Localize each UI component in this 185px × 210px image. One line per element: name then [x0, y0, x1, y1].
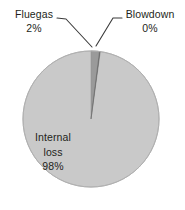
pie-label-internal-loss-name-line2: loss	[18, 145, 88, 160]
pie-label-fluegas-name: Fluegas	[6, 8, 62, 22]
pie-chart: Fluegas 2% Blowdown 0% Internal loss 98%	[0, 0, 185, 210]
pie-label-blowdown-name: Blowdown	[118, 8, 182, 22]
pie-label-internal-loss: Internal loss 98%	[18, 130, 88, 174]
pie-label-fluegas: Fluegas 2%	[6, 8, 62, 35]
pie-label-blowdown: Blowdown 0%	[118, 8, 182, 35]
pie-label-internal-loss-name-line1: Internal	[18, 130, 88, 145]
pie-label-internal-loss-value: 98%	[18, 159, 88, 174]
leader-line-fluegas	[57, 18, 92, 47]
pie-label-fluegas-value: 2%	[6, 22, 62, 36]
pie-label-blowdown-value: 0%	[118, 22, 182, 36]
